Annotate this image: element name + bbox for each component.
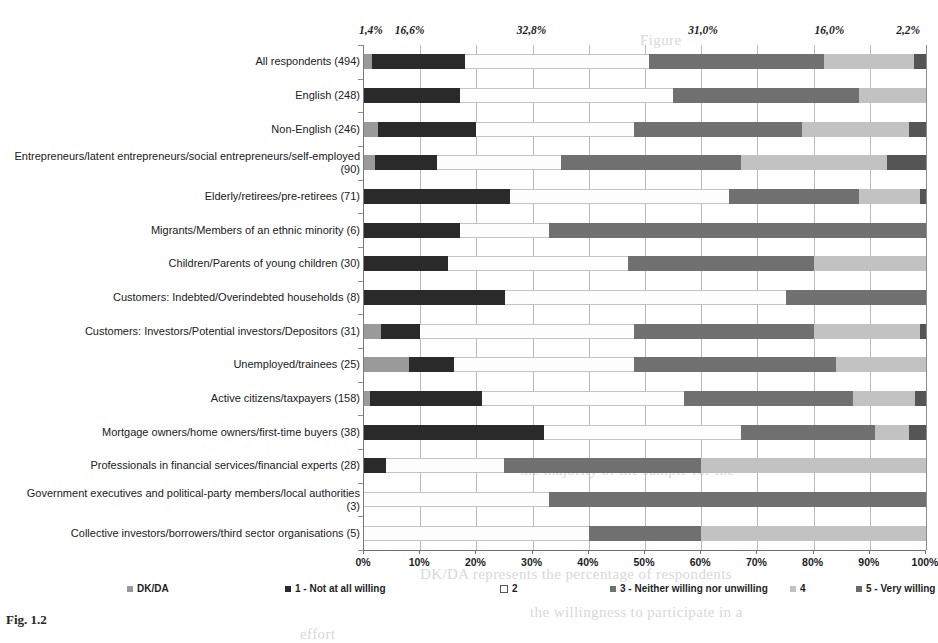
- x-tick-label: 30%: [521, 556, 542, 568]
- ghost-text-bottom-c: effort: [300, 626, 335, 643]
- legend-item[interactable]: DK/DA: [127, 583, 169, 594]
- y-axis-tick: [358, 146, 363, 147]
- bar-segment: [741, 425, 876, 440]
- bar-segment: [364, 458, 386, 473]
- y-axis-tick: [358, 449, 363, 450]
- legend-swatch-icon: [856, 586, 862, 592]
- bar-segment: [887, 155, 926, 170]
- bar-segment: [364, 290, 505, 305]
- category-label: Migrants/Members of an ethnic minority (…: [12, 224, 360, 237]
- y-axis-tick: [358, 79, 363, 80]
- bar-segment: [634, 324, 814, 339]
- legend-item[interactable]: 5 - Very willing: [856, 583, 935, 594]
- bar-segment: [364, 256, 448, 271]
- x-tick-label: 40%: [577, 556, 598, 568]
- category-label: Professionals in financial services/fina…: [12, 459, 360, 472]
- x-tick-label: 100%: [912, 556, 938, 568]
- bar-segment: [909, 425, 926, 440]
- legend-item[interactable]: 3 - Neither willing nor unwilling: [610, 583, 768, 594]
- bar-segment: [701, 458, 926, 473]
- bar-segment: [684, 391, 853, 406]
- legend-label: 5 - Very willing: [866, 583, 935, 594]
- y-axis-tick: [358, 314, 363, 315]
- x-axis-tick: [644, 550, 645, 554]
- bar-segment: [364, 324, 381, 339]
- y-axis-tick: [358, 348, 363, 349]
- bar-segment: [482, 391, 684, 406]
- bar-segment: [875, 425, 909, 440]
- bar-row: [364, 425, 926, 440]
- category-label: Customers: Indebted/Overindebted househo…: [12, 291, 360, 304]
- x-tick-label: 50%: [633, 556, 654, 568]
- bar-segment: [386, 458, 504, 473]
- bar-segment: [437, 155, 561, 170]
- bar-row: [364, 324, 926, 339]
- bar-segment: [364, 526, 589, 541]
- top-value-label: 2,2%: [896, 24, 920, 36]
- y-axis-tick: [358, 180, 363, 181]
- legend-swatch-icon: [127, 586, 133, 592]
- y-axis-tick: [358, 382, 363, 383]
- bar-segment: [741, 155, 887, 170]
- category-label: Mortgage owners/home owners/first-time b…: [12, 426, 360, 439]
- top-value-label: 16,6%: [395, 24, 425, 36]
- top-value-labels: 1,4%16,6%32,8%31,0%16,0%2,2%: [363, 24, 925, 42]
- legend-label: 1 - Not at all willing: [295, 583, 386, 594]
- bar-segment: [448, 256, 628, 271]
- top-value-label: 16,0%: [815, 24, 845, 36]
- x-tick-label: 10%: [409, 556, 430, 568]
- y-axis-tick: [358, 550, 363, 551]
- plot-wrapper: All respondents (494)English (248)Non-En…: [0, 45, 936, 550]
- bar-segment: [836, 357, 926, 372]
- bar-segment: [853, 391, 915, 406]
- category-label: Customers: Investors/Potential investors…: [12, 325, 360, 338]
- y-axis-tick: [358, 516, 363, 517]
- bar-segment: [378, 122, 476, 137]
- x-axis-tick: [419, 550, 420, 554]
- legend-item[interactable]: 4: [790, 583, 806, 594]
- bar-row: [364, 223, 926, 238]
- category-label: Elderly/retirees/pre-retirees (71): [12, 190, 360, 203]
- bar-segment: [549, 492, 926, 507]
- category-label: Collective investors/borrowers/third sec…: [12, 527, 360, 540]
- bar-segment: [454, 357, 634, 372]
- bar-segment: [786, 290, 927, 305]
- bar-segment: [814, 324, 921, 339]
- x-tick-label: 60%: [690, 556, 711, 568]
- bar-segment: [634, 122, 803, 137]
- y-axis-tick: [358, 45, 363, 46]
- y-axis-tick: [358, 483, 363, 484]
- y-axis-tick: [358, 415, 363, 416]
- category-label: All respondents (494): [12, 55, 360, 68]
- legend-label: 3 - Neither willing nor unwilling: [620, 583, 768, 594]
- bar-segment: [549, 223, 926, 238]
- x-tick-label: 90%: [858, 556, 879, 568]
- bar-row: [364, 458, 926, 473]
- bar-segment: [460, 88, 674, 103]
- bar-segment: [476, 122, 633, 137]
- bar-row: [364, 256, 926, 271]
- bar-segment: [364, 425, 544, 440]
- bar-row: [364, 122, 926, 137]
- x-axis-tick: [588, 550, 589, 554]
- legend-item[interactable]: 2: [500, 583, 518, 594]
- legend-item[interactable]: 1 - Not at all willing: [285, 583, 386, 594]
- legend-label: DK/DA: [137, 583, 169, 594]
- x-axis-tick: [813, 550, 814, 554]
- bar-segment: [465, 54, 649, 69]
- bar-segment: [420, 324, 634, 339]
- bar-segment: [370, 391, 482, 406]
- bar-segment: [504, 458, 701, 473]
- x-axis-tick: [700, 550, 701, 554]
- bar-segment: [372, 54, 465, 69]
- x-axis-tick: [756, 550, 757, 554]
- bar-segment: [364, 54, 372, 69]
- figure-caption: Fig. 1.2: [6, 612, 47, 628]
- ghost-text-bottom-b: the willingness to participate in a: [530, 604, 743, 621]
- bar-row: [364, 54, 926, 69]
- bar-segment: [364, 223, 460, 238]
- bar-segment: [505, 290, 786, 305]
- category-label: Entrepreneurs/latent entrepreneurs/socia…: [12, 150, 360, 175]
- bar-segment: [673, 88, 858, 103]
